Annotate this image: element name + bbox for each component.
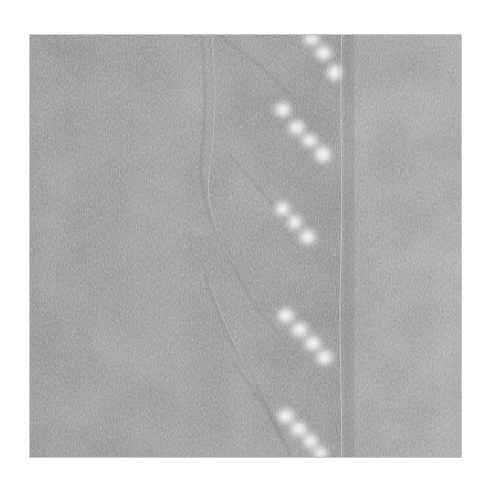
knit-fabric-photo	[29, 34, 462, 458]
fabric-texture	[30, 35, 461, 457]
